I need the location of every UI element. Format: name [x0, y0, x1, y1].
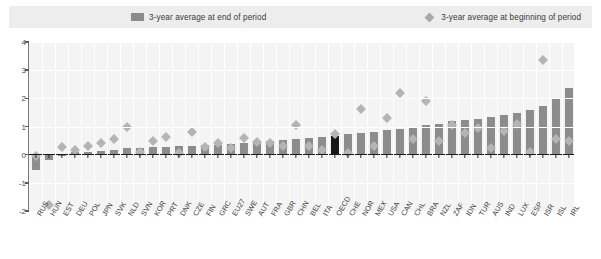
gridline-v	[185, 42, 186, 211]
gridline-v	[523, 42, 524, 211]
y-tick-label: 2	[2, 94, 26, 103]
y-tick-label: 3	[2, 66, 26, 75]
diamond-prt[interactable]	[161, 132, 171, 142]
x-axis-labels: RUSHUNESTDEUPOLJPNSVKNLDSVNKORPRTDNKCZEF…	[28, 211, 574, 259]
gridline-v	[315, 42, 316, 211]
y-tick-label: 0	[2, 150, 26, 159]
gridline-v	[263, 42, 264, 211]
diamond-est[interactable]	[57, 142, 67, 152]
y-tick-mark	[25, 98, 29, 99]
gridline-v	[120, 42, 121, 211]
gridline-v	[81, 42, 82, 211]
legend-bar-swatch-icon	[131, 13, 144, 21]
gridline-v	[393, 42, 394, 211]
bar-usa[interactable]	[382, 130, 390, 154]
gridline-v	[536, 42, 537, 211]
gridline-v	[341, 42, 342, 211]
gridline-v	[458, 42, 459, 211]
gridline-v	[42, 42, 43, 211]
diamond-swe[interactable]	[239, 133, 249, 143]
gridline-v	[432, 42, 433, 211]
y-tick-label: -1	[2, 178, 26, 187]
gridline-v	[276, 42, 277, 211]
gridline-v	[354, 42, 355, 211]
gridline-v	[406, 42, 407, 211]
bar-isr[interactable]	[538, 106, 546, 154]
gridline-v	[471, 42, 472, 211]
y-tick-mark	[25, 69, 29, 70]
bar-can[interactable]	[395, 129, 403, 155]
chart-root: 3-year average at end of period 3-year a…	[0, 0, 601, 259]
y-tick-mark	[25, 126, 29, 127]
gridline-v	[484, 42, 485, 211]
gridline-v	[172, 42, 173, 211]
gridline-v	[445, 42, 446, 211]
gridline-v	[562, 42, 563, 211]
y-tick-label: -2	[2, 207, 26, 216]
plot-area	[28, 42, 574, 211]
gridline-v	[94, 42, 95, 211]
gridline-v	[224, 42, 225, 211]
gridline-v	[380, 42, 381, 211]
diamond-isr[interactable]	[538, 55, 548, 65]
legend-item-end-of-period: 3-year average at end of period	[131, 13, 266, 22]
gridline-v	[133, 42, 134, 211]
y-tick-mark	[25, 41, 29, 42]
gridline-v	[289, 42, 290, 211]
bar-nor[interactable]	[356, 133, 364, 155]
gridline-v	[237, 42, 238, 211]
y-tick-mark	[25, 182, 29, 183]
legend-label-beginning-of-period: 3-year average at beginning of period	[441, 13, 581, 22]
diamond-nor[interactable]	[356, 104, 366, 114]
diamond-jpn[interactable]	[96, 138, 106, 148]
gridline-v	[68, 42, 69, 211]
gridline-v	[367, 42, 368, 211]
legend-label-end-of-period: 3-year average at end of period	[149, 13, 266, 22]
y-tick-label: 4	[2, 38, 26, 47]
gridline-v	[250, 42, 251, 211]
gridline-v	[159, 42, 160, 211]
y-tick-label: 1	[2, 122, 26, 131]
gridline-v	[107, 42, 108, 211]
diamond-chn[interactable]	[291, 120, 301, 130]
gridline-v	[328, 42, 329, 211]
gridline-v	[549, 42, 550, 211]
diamond-svk[interactable]	[109, 134, 119, 144]
diamond-kor[interactable]	[148, 136, 158, 146]
diamond-usa[interactable]	[382, 113, 392, 123]
y-axis: 43210-1-2	[0, 42, 26, 211]
legend-diamond-swatch-icon	[425, 12, 435, 22]
gridline-v	[146, 42, 147, 211]
diamond-pol[interactable]	[83, 141, 93, 151]
gridline-v	[211, 42, 212, 211]
gridline-v	[198, 42, 199, 211]
bar-bra[interactable]	[421, 125, 429, 155]
gridline-v	[55, 42, 56, 211]
diamond-can[interactable]	[395, 88, 405, 98]
diamond-cze[interactable]	[187, 127, 197, 137]
gridline-v	[510, 42, 511, 211]
gridline-v	[302, 42, 303, 211]
gridline-v	[419, 42, 420, 211]
chart-legend: 3-year average at end of period 3-year a…	[9, 6, 592, 28]
bar-chn[interactable]	[291, 139, 299, 154]
legend-item-beginning-of-period: 3-year average at beginning of period	[424, 13, 581, 22]
gridline-v	[497, 42, 498, 211]
